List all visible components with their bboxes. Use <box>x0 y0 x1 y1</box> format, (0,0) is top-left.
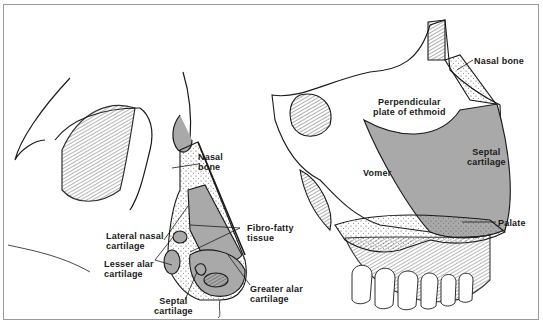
label-line: Perpendicular <box>373 97 446 107</box>
anatomy-illustration <box>0 0 543 324</box>
label-line: Fibro-fatty <box>247 223 294 233</box>
label-septal-cartilage-left: Septal cartilage <box>154 296 193 316</box>
label-line: plate of ethmoid <box>373 107 446 117</box>
label-greater-alar-cartilage: Greater alar cartilage <box>250 284 303 304</box>
label-line: cartilage <box>154 306 193 316</box>
label-lesser-alar-cartilage: Lesser alar cartilage <box>104 259 154 279</box>
label-line: Septal <box>154 296 193 306</box>
label-line: Greater alar <box>250 284 303 294</box>
label-fibro-fatty-tissue: Fibro-fatty tissue <box>247 223 294 243</box>
label-line: Septal <box>467 147 506 157</box>
label-line: Lateral nasal <box>106 231 164 241</box>
label-septal-cartilage-right: Septal cartilage <box>467 147 506 167</box>
label-line: Lesser alar <box>104 259 154 269</box>
label-line: bone <box>198 162 223 172</box>
label-line: cartilage <box>250 294 303 304</box>
label-line: cartilage <box>467 157 506 167</box>
label-line: cartilage <box>104 269 154 279</box>
label-line: cartilage <box>106 241 164 251</box>
label-perpendicular-plate: Perpendicular plate of ethmoid <box>373 97 446 117</box>
label-line: tissue <box>247 233 294 243</box>
label-line: Nasal <box>198 152 223 162</box>
label-nasal-bone-left: Nasal bone <box>198 152 223 172</box>
label-vomer: Vomer <box>363 168 391 178</box>
label-nasal-bone-right: Nasal bone <box>474 56 524 66</box>
label-lateral-nasal-cartilage: Lateral nasal cartilage <box>106 231 164 251</box>
left-skull-outline <box>8 72 192 272</box>
label-palate: Palate <box>498 218 526 228</box>
